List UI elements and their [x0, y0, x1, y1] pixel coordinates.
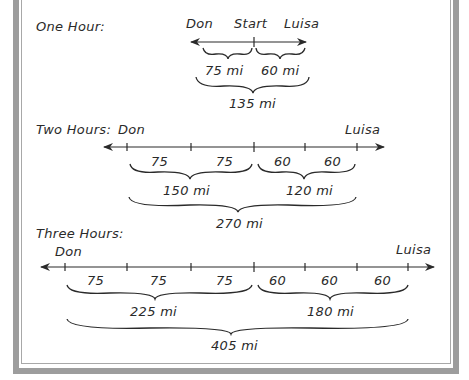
subtotal-don: 75 mi — [205, 63, 244, 78]
brace — [256, 48, 305, 59]
section-two-hours: Two Hours: Don Luisa 75 75 60 60 150 mi … — [36, 122, 384, 231]
brace-total — [129, 197, 356, 212]
section-three-hours: Three Hours: Don Luisa 75 75 75 60 60 60… — [36, 226, 434, 353]
brace — [130, 164, 252, 179]
brace-total — [67, 319, 408, 334]
segment: 60 — [374, 273, 391, 288]
total: 405 mi — [211, 338, 258, 353]
label-don: Don — [55, 244, 82, 259]
segment: 75 — [151, 154, 168, 169]
segment: 60 — [269, 273, 286, 288]
segment: 60 — [274, 154, 291, 169]
label-start: Start — [234, 16, 268, 31]
section-title: Three Hours: — [36, 226, 124, 241]
label-luisa: Luisa — [345, 122, 380, 137]
distance-diagram: One Hour: Don Start Luisa 75 mi 60 mi 13… — [0, 0, 469, 380]
segment: 75 — [150, 273, 167, 288]
segment: 60 — [321, 273, 338, 288]
segment: 60 — [324, 154, 341, 169]
subtotal-don: 225 mi — [130, 304, 177, 319]
label-don: Don — [186, 16, 213, 31]
segment: 75 — [216, 154, 233, 169]
subtotal-don: 150 mi — [163, 183, 210, 198]
subtotal-luisa: 180 mi — [307, 304, 354, 319]
brace-total — [196, 77, 309, 93]
section-title: One Hour: — [36, 19, 105, 34]
subtotal-luisa: 60 mi — [261, 63, 300, 78]
label-don: Don — [118, 122, 145, 137]
total: 135 mi — [229, 96, 276, 111]
section-one-hour: One Hour: Don Start Luisa 75 mi 60 mi 13… — [36, 16, 319, 111]
section-title: Two Hours: — [36, 122, 111, 137]
brace — [203, 48, 252, 59]
label-luisa: Luisa — [396, 242, 431, 257]
segment: 75 — [216, 273, 233, 288]
subtotal-luisa: 120 mi — [286, 183, 333, 198]
segment: 75 — [87, 273, 104, 288]
label-luisa: Luisa — [284, 16, 319, 31]
total: 270 mi — [216, 216, 263, 231]
